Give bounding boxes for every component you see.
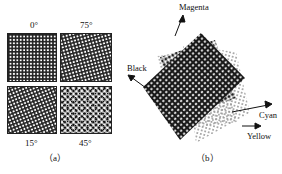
label-magenta: Magenta: [179, 3, 209, 12]
caption-b: （b）: [196, 153, 219, 163]
black-arrowhead-icon: [128, 75, 135, 81]
label-yellow: Yellow: [247, 132, 271, 141]
magenta-arrowhead-icon: [179, 15, 185, 22]
label-cyan: Cyan: [259, 111, 277, 120]
cyan-arrowhead-icon: [265, 101, 272, 108]
yellow-arrowhead-icon: [255, 123, 261, 129]
label-black: Black: [127, 64, 147, 73]
screens-overlay-graphic: [0, 0, 282, 174]
